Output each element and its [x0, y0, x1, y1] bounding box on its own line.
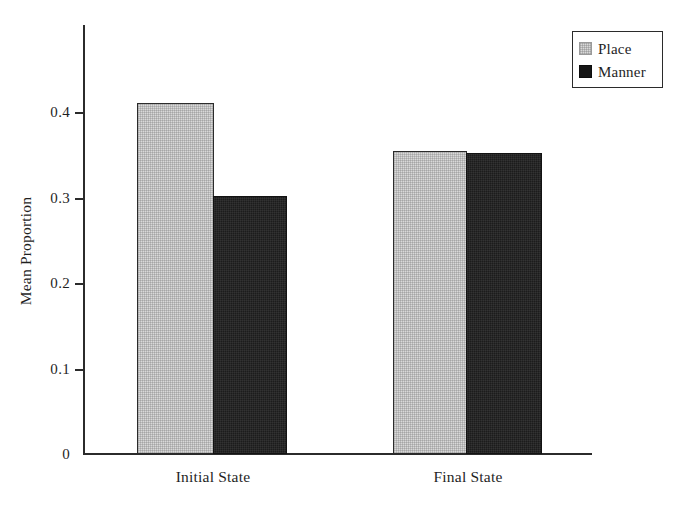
y-tick-label-wrap-0.2: 0.2 [26, 276, 70, 291]
legend-item-place: Place [579, 37, 657, 60]
y-tick-0.3 [75, 198, 84, 200]
chart-figure: Mean Proportion 0.4 0.3 0.2 0.1 0 Initia… [0, 0, 683, 511]
bar-place-initial-state [137, 103, 214, 454]
y-tick-label-wrap-0: 0 [26, 447, 70, 462]
y-tick-0.1 [75, 369, 84, 371]
y-tick-0.4 [75, 112, 84, 114]
y-tick-label-0.2: 0.2 [34, 276, 70, 291]
legend: Place Manner [572, 31, 663, 88]
y-tick-label-wrap-0.1: 0.1 [26, 362, 70, 377]
y-tick-label-0.4: 0.4 [34, 105, 70, 120]
bar-manner-initial-state [213, 196, 287, 454]
y-tick-label-0: 0 [34, 447, 70, 462]
x-category-label-final-state: Final State [388, 468, 548, 486]
legend-swatch-place-icon [579, 42, 592, 55]
plot-area: Mean Proportion 0.4 0.3 0.2 0.1 0 Initia… [0, 0, 683, 511]
y-tick-label-0.3: 0.3 [34, 191, 70, 206]
x-category-label-initial-state: Initial State [133, 468, 293, 486]
y-tick-label-0.1: 0.1 [34, 362, 70, 377]
y-tick-label-wrap-0.3: 0.3 [26, 191, 70, 206]
legend-label-manner: Manner [598, 64, 646, 80]
legend-item-manner: Manner [579, 60, 657, 83]
bar-manner-final-state [466, 153, 542, 454]
y-axis-line [83, 25, 85, 455]
y-tick-label-wrap-0.4: 0.4 [26, 105, 70, 120]
legend-label-place: Place [598, 41, 631, 57]
y-tick-0.2 [75, 283, 84, 285]
bar-place-final-state [393, 151, 467, 454]
legend-swatch-manner-icon [579, 65, 592, 78]
